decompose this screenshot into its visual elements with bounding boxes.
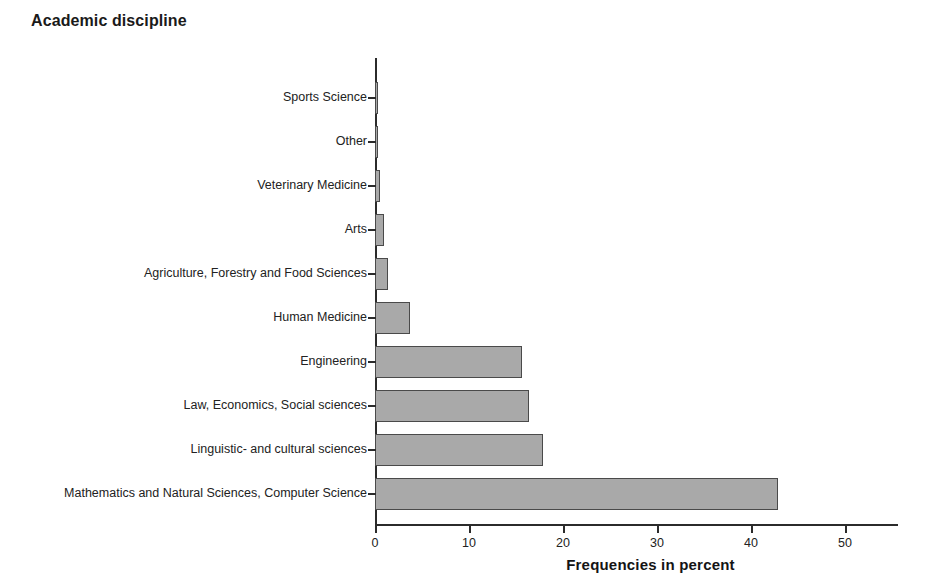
x-axis-tick xyxy=(751,524,753,533)
category-tick xyxy=(368,449,376,451)
bar-chart: Academic discipline 01020304050 Sports S… xyxy=(0,0,935,586)
x-axis-tick xyxy=(657,524,659,533)
x-axis-tick xyxy=(563,524,565,533)
category-label: Sports Science xyxy=(0,90,367,104)
category-tick xyxy=(368,141,376,143)
x-axis-title-text: Frequencies in percent xyxy=(566,556,735,573)
category-label: Engineering xyxy=(0,354,367,368)
x-axis-tick-label: 10 xyxy=(462,536,476,550)
bar xyxy=(375,434,543,466)
category-label: Agriculture, Forestry and Food Sciences xyxy=(0,266,367,280)
bar xyxy=(375,258,388,290)
category-tick xyxy=(368,405,376,407)
category-tick xyxy=(368,97,376,99)
category-tick xyxy=(368,493,376,495)
x-axis-tick-label: 0 xyxy=(372,536,379,550)
bar xyxy=(375,390,529,422)
category-label: Mathematics and Natural Sciences, Comput… xyxy=(0,486,367,500)
x-axis-tick-label: 40 xyxy=(744,536,758,550)
bar xyxy=(375,214,384,246)
category-tick xyxy=(368,361,376,363)
plot-area: 01020304050 xyxy=(375,58,898,525)
bar xyxy=(375,478,778,510)
x-axis-line xyxy=(375,524,898,526)
x-axis-tick-label: 20 xyxy=(556,536,570,550)
category-label: Linguistic- and cultural sciences xyxy=(0,442,367,456)
category-label: Human Medicine xyxy=(0,310,367,324)
x-axis-tick xyxy=(469,524,471,533)
x-axis-tick xyxy=(845,524,847,533)
x-axis-tick xyxy=(375,524,377,533)
x-axis-tick-label: 50 xyxy=(838,536,852,550)
bar xyxy=(375,302,410,334)
category-tick xyxy=(368,229,376,231)
category-label: Arts xyxy=(0,222,367,236)
category-label: Other xyxy=(0,134,367,148)
x-axis-tick-label: 30 xyxy=(650,536,664,550)
category-label: Law, Economics, Social sciences xyxy=(0,398,367,412)
category-tick xyxy=(368,273,376,275)
x-axis-title: Frequencies in percent xyxy=(0,556,935,573)
category-label: Veterinary Medicine xyxy=(0,178,367,192)
bar xyxy=(375,346,522,378)
category-tick xyxy=(368,185,376,187)
category-tick xyxy=(368,317,376,319)
chart-title: Academic discipline xyxy=(31,12,187,30)
